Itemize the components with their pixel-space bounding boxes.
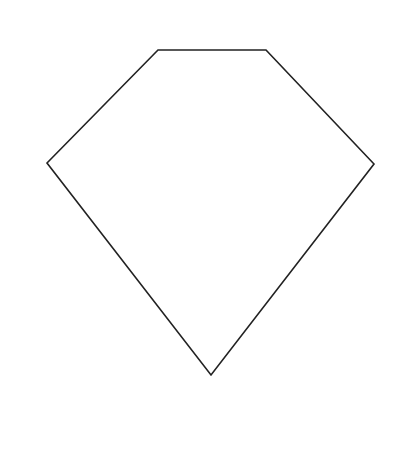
diagram-canvas: [0, 0, 415, 474]
pentagon-shape: [47, 50, 374, 375]
